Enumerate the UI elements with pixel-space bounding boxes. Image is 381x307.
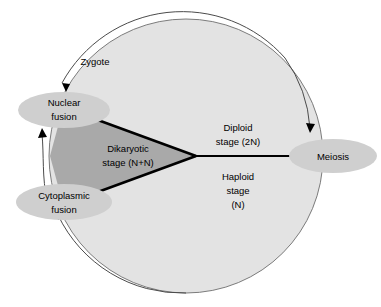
dikaryotic-stage-label-line2: stage (N+N) <box>102 157 153 168</box>
haploid-stage-label-line3: (N) <box>231 199 244 210</box>
arrowhead-nuclear-icon <box>38 128 47 138</box>
haploid-stage-label-line1: Haploid <box>222 171 254 182</box>
diploid-stage-label-line1: Diploid <box>223 122 252 133</box>
zygote-label: Zygote <box>80 56 109 67</box>
diploid-stage-label-line2: stage (2N) <box>216 136 260 147</box>
meiosis-label: Meiosis <box>317 151 349 162</box>
life-cycle-diagram: Zygote Nuclear fusion Cytoplasmic fusion… <box>0 0 381 307</box>
life-cycle-svg: Zygote Nuclear fusion Cytoplasmic fusion… <box>0 0 381 307</box>
haploid-stage-label-line2: stage <box>226 185 249 196</box>
cytoplasmic-fusion-label-line1: Cytoplasmic <box>38 190 90 201</box>
dikaryotic-stage-label-line1: Dikaryotic <box>107 143 149 154</box>
cytoplasmic-fusion-label-line2: fusion <box>51 204 76 215</box>
nuclear-fusion-label-line2: fusion <box>51 111 76 122</box>
nuclear-fusion-label-line1: Nuclear <box>48 97 81 108</box>
